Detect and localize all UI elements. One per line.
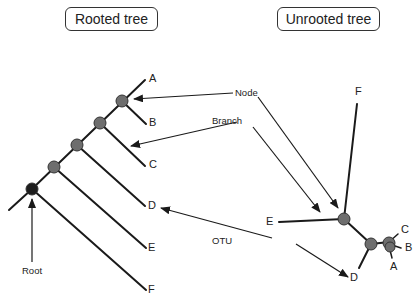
node-arrow-rooted	[134, 93, 233, 99]
internal-node	[116, 95, 128, 107]
unrooted-branch-e	[279, 219, 344, 222]
rooted-leaf-f: F	[148, 284, 155, 295]
branch-annotation: Branch	[212, 116, 242, 126]
node-arrow-unrooted	[258, 97, 338, 208]
unrooted-nodes	[338, 213, 395, 252]
rooted-leaf-e: E	[148, 242, 155, 253]
rooted-leaf-b: B	[149, 117, 156, 128]
branch-f	[32, 189, 146, 290]
root-node	[26, 183, 38, 195]
rooted-leaf-a: A	[149, 73, 156, 84]
unrooted-node	[365, 238, 377, 250]
node-annotation: Node	[235, 88, 258, 98]
unrooted-leaf-a: A	[390, 261, 397, 272]
unrooted-tree-title: Unrooted tree	[277, 7, 380, 31]
unrooted-cluster-node	[385, 242, 395, 252]
otu-arrow-rooted	[161, 208, 272, 238]
branch-e	[54, 167, 146, 248]
rooted-leaf-d: D	[148, 200, 156, 211]
unrooted-leaf-d: D	[350, 272, 358, 283]
rooted-tree-title: Rooted tree	[65, 7, 158, 31]
rooted-leaf-c: C	[149, 159, 157, 170]
internal-node	[48, 161, 60, 173]
otu-arrow-unrooted	[296, 244, 348, 277]
unrooted-leaf-c: C	[401, 224, 409, 235]
root-label: Root	[22, 266, 42, 276]
internal-node	[94, 117, 106, 129]
unrooted-center-node	[338, 213, 350, 225]
unrooted-leaf-f: F	[355, 86, 362, 97]
phylogenetic-tree-diagram	[0, 0, 419, 303]
backbone-branch	[32, 80, 145, 189]
unrooted-branch-f	[344, 104, 357, 219]
unrooted-leaf-e: E	[266, 216, 273, 227]
otu-annotation: OTU	[212, 236, 232, 246]
internal-node	[71, 139, 83, 151]
unrooted-leaf-b: B	[405, 242, 412, 253]
